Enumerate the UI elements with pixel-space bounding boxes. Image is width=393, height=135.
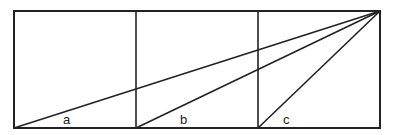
three-squares-diagram: a b c — [0, 0, 393, 135]
label-c: c — [283, 112, 290, 127]
label-a: a — [63, 112, 71, 127]
diagonal-a — [14, 11, 380, 128]
label-b: b — [180, 112, 187, 127]
diagonal-c — [258, 11, 380, 128]
